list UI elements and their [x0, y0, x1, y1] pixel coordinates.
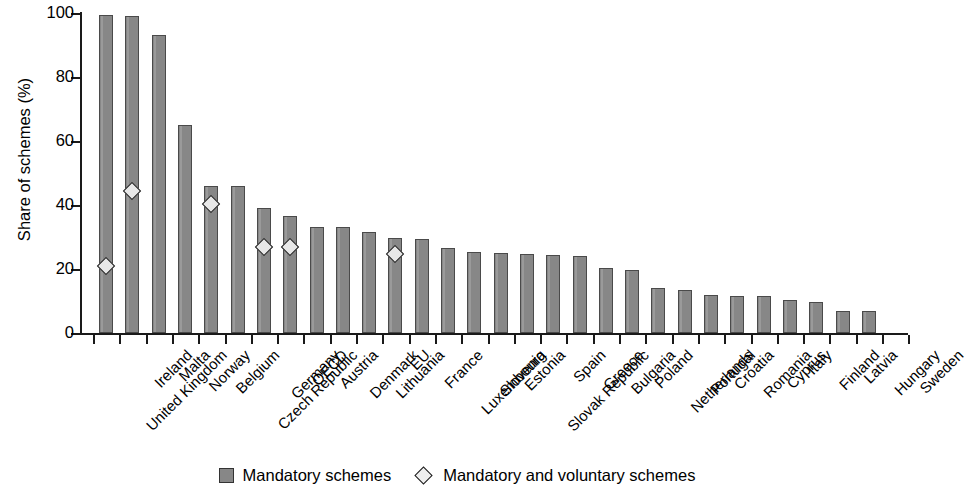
x-axis-tick-mark — [882, 335, 884, 344]
bar — [178, 125, 192, 333]
bar — [362, 232, 376, 333]
y-axis-tick-label: 0 — [65, 322, 74, 342]
x-axis-tick-mark — [593, 335, 595, 344]
x-axis-tick-mark — [382, 335, 384, 344]
x-axis-tick-mark — [751, 335, 753, 344]
x-axis-tick-mark — [672, 335, 674, 344]
bar — [730, 296, 744, 333]
legend-item: Mandatory and voluntary schemes — [415, 466, 695, 485]
legend-label: Mandatory and voluntary schemes — [443, 466, 695, 485]
x-axis-tick-mark — [566, 335, 568, 344]
bar — [678, 290, 692, 333]
y-axis-tick-label: 80 — [56, 66, 74, 86]
x-axis-tick-mark — [435, 335, 437, 344]
x-axis-tick-mark — [698, 335, 700, 344]
bar — [862, 311, 876, 333]
bar — [310, 227, 324, 333]
x-axis-tick-mark — [172, 335, 174, 344]
x-axis-tick-mark — [146, 335, 148, 344]
chart-legend: Mandatory schemesMandatory and voluntary… — [0, 466, 914, 485]
bar — [467, 252, 481, 333]
y-axis-tick-label: 40 — [56, 194, 74, 214]
x-axis-tick-mark — [461, 335, 463, 344]
x-axis-tick-mark — [829, 335, 831, 344]
bar — [125, 16, 139, 333]
bar — [783, 300, 797, 333]
x-axis-tick-mark — [409, 335, 411, 344]
legend-diamond-icon — [414, 466, 432, 484]
bar — [336, 227, 350, 333]
bar — [704, 295, 718, 333]
legend-square-icon — [219, 468, 234, 483]
bar — [573, 256, 587, 333]
bar — [520, 254, 534, 333]
x-axis-tick-mark — [803, 335, 805, 344]
bar — [599, 268, 613, 333]
x-axis-tick-mark — [645, 335, 647, 344]
x-axis-tick-mark — [303, 335, 305, 344]
x-axis-tick-mark — [856, 335, 858, 344]
x-axis-tick-mark — [93, 335, 95, 344]
bar — [494, 253, 508, 333]
plot-inner: 020406080100 — [80, 13, 908, 333]
x-axis-tick-mark — [277, 335, 279, 344]
plot-area: 020406080100 — [80, 13, 908, 333]
x-axis-tick-mark — [119, 335, 121, 344]
bar — [809, 302, 823, 333]
x-axis-tick-mark — [225, 335, 227, 344]
bar — [651, 288, 665, 333]
x-axis-category-label: France — [441, 347, 485, 391]
x-axis-tick-mark — [619, 335, 621, 344]
x-axis-tick-mark — [251, 335, 253, 344]
x-axis-tick-mark — [488, 335, 490, 344]
x-axis-line — [80, 333, 908, 335]
x-axis-tick-mark — [330, 335, 332, 344]
bar — [257, 208, 271, 333]
y-axis-title: Share of schemes (%) — [15, 50, 34, 270]
y-axis-tick-label: 20 — [56, 258, 74, 278]
legend-label: Mandatory schemes — [243, 466, 392, 485]
bar — [625, 270, 639, 333]
x-axis-tick-mark — [540, 335, 542, 344]
bar — [836, 311, 850, 333]
x-axis-tick-mark — [777, 335, 779, 344]
bar — [546, 255, 560, 333]
x-axis-tick-mark — [198, 335, 200, 344]
bar — [231, 186, 245, 333]
y-axis-tick-label: 60 — [56, 130, 74, 150]
bar — [99, 15, 113, 333]
bar — [152, 35, 166, 333]
x-axis-tick-mark — [724, 335, 726, 344]
legend-item: Mandatory schemes — [219, 466, 392, 485]
x-axis-tick-mark — [908, 335, 910, 344]
bar — [441, 248, 455, 333]
bar — [283, 216, 297, 333]
x-axis-tick-mark — [356, 335, 358, 344]
x-axis-tick-mark — [514, 335, 516, 344]
y-axis-line — [80, 12, 82, 334]
bar — [415, 239, 429, 333]
y-axis-tick-label: 100 — [46, 2, 74, 22]
bar — [757, 296, 771, 333]
